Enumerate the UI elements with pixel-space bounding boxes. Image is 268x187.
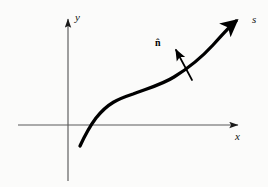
diagram-svg xyxy=(0,0,268,187)
curve-label: s xyxy=(252,14,256,25)
figure-canvas: y x s n̂ xyxy=(0,0,268,187)
normal-vector-label: n̂ xyxy=(155,38,161,48)
y-axis-label: y xyxy=(75,12,80,23)
x-axis-label: x xyxy=(235,131,240,142)
